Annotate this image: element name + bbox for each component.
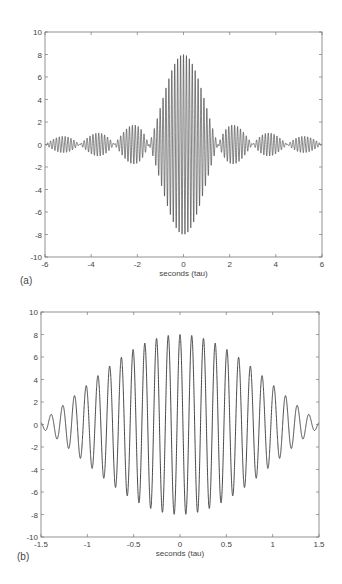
y-tick-label: 6 (38, 73, 43, 82)
y-tick-label: 4 (34, 376, 39, 385)
signal-line (41, 335, 319, 515)
x-tick-label: 2 (227, 260, 232, 269)
x-axis-label: seconds (tau) (159, 269, 208, 278)
y-tick-label: -10 (30, 253, 42, 262)
y-tick-label: -10 (26, 533, 38, 542)
figure: -6-4-202461086420-2-4-6-8-10seconds (tau… (0, 0, 342, 584)
x-tick-label: -2 (134, 260, 142, 269)
y-tick-label: 8 (34, 331, 39, 340)
x-tick-label: -6 (41, 260, 49, 269)
x-tick-label: 0 (181, 260, 186, 269)
y-tick-label: 2 (34, 398, 39, 407)
y-tick-label: -4 (35, 186, 43, 195)
y-tick-label: -6 (35, 208, 43, 217)
x-tick-label: 1.5 (313, 540, 325, 549)
x-tick-label: 1 (270, 540, 275, 549)
y-tick-label: 8 (38, 51, 43, 60)
x-tick-label: -0.5 (127, 540, 141, 549)
signal-line (45, 55, 322, 235)
chart-a: -6-4-202461086420-2-4-6-8-10seconds (tau… (20, 28, 325, 286)
y-tick-label: 0 (38, 141, 43, 150)
panel-label: (b) (17, 551, 29, 562)
y-tick-label: -6 (31, 488, 39, 497)
x-tick-label: 0.5 (221, 540, 233, 549)
y-tick-label: 4 (38, 96, 43, 105)
y-tick-label: -8 (35, 231, 43, 240)
y-tick-label: -8 (31, 511, 39, 520)
y-tick-label: 0 (34, 421, 39, 430)
y-tick-label: 6 (34, 353, 39, 362)
y-tick-label: -2 (35, 163, 43, 172)
x-tick-label: 4 (274, 260, 279, 269)
x-axis-label: seconds (tau) (156, 549, 205, 558)
x-tick-label: 6 (320, 260, 325, 269)
y-tick-label: -2 (31, 443, 39, 452)
y-tick-label: -4 (31, 466, 39, 475)
panel-label: (a) (20, 275, 32, 286)
chart-b: -1.5-1-0.500.511.51086420-2-4-6-8-10seco… (17, 308, 325, 562)
x-tick-label: -1 (84, 540, 92, 549)
x-tick-label: 0 (178, 540, 183, 549)
y-tick-label: 10 (29, 308, 38, 317)
y-tick-label: 10 (33, 28, 42, 37)
axes-box (41, 312, 319, 537)
x-tick-label: -4 (88, 260, 96, 269)
y-tick-label: 2 (38, 118, 43, 127)
